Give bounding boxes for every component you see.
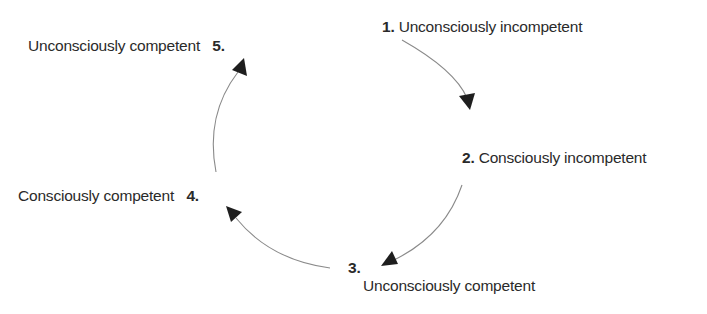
stage-5-number: 5.	[212, 37, 225, 54]
stage-4-number: 4.	[186, 187, 199, 204]
stage-2-label: Consciously incompetent	[479, 149, 647, 166]
arrowhead-5	[232, 58, 247, 76]
arrow-4-to-5	[213, 72, 238, 172]
stage-5-label: Unconsciously competent	[28, 37, 200, 54]
arrow-1-to-2	[402, 40, 467, 98]
stage-3-number: 3.	[348, 259, 361, 277]
stage-4: Consciously competent 4.	[18, 187, 199, 205]
arrowhead-3	[381, 251, 398, 266]
stage-3-label: Unconsciously competent	[363, 277, 535, 295]
stage-1-number: 1.	[382, 18, 395, 35]
stage-1: 1. Unconsciously incompetent	[382, 18, 582, 36]
arrowhead-2	[459, 93, 475, 110]
stage-5: Unconsciously competent 5.	[28, 37, 225, 55]
arrowhead-4	[226, 206, 242, 222]
stage-2: 2. Consciously incompetent	[462, 149, 646, 167]
stage-2-number: 2.	[462, 149, 475, 166]
stage-1-label: Unconsciously incompetent	[399, 18, 583, 35]
arrow-2-to-3	[394, 185, 462, 260]
arrow-3-to-4	[236, 218, 330, 268]
stage-4-label: Consciously competent	[18, 187, 174, 204]
